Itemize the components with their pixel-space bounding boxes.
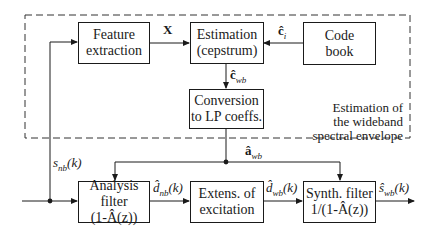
feature-extraction-block: Feature extraction	[78, 22, 150, 64]
block-label-line: excitation	[199, 202, 254, 218]
estimation-cepstrum-block: Estimation (cepstrum)	[190, 22, 264, 64]
conversion-lp-block: Conversion to LP coeffs.	[189, 89, 264, 129]
signal-label-dnb: d̂nb(k)	[153, 181, 183, 200]
signal-label-cwb: ĉwb	[230, 68, 246, 87]
signal-label-swb: ŝwb(k)	[379, 181, 409, 200]
block-label-line: Extens. of	[199, 186, 256, 202]
awb-to-synth-line	[226, 162, 340, 180]
signal-label-awb: âwb	[245, 144, 262, 163]
analysis-filter-block: Analysis filter (1-Â(z))	[78, 181, 150, 223]
branch-to-feature-line	[50, 42, 77, 201]
block-label-line: Estimation	[197, 27, 258, 43]
block-label-line: Code	[325, 28, 355, 44]
synthesis-filter-block: Synth. filter 1/(1-Â(z))	[303, 181, 376, 223]
code-book-block: Code book	[303, 22, 376, 65]
region-caption: Estimation of the wideband spectral enve…	[300, 101, 403, 143]
region-caption-line: the wideband	[300, 115, 403, 129]
signal-label-dwb: d̂wb(k)	[266, 181, 297, 200]
block-label-line: Analysis filter	[79, 178, 149, 210]
block-label-line: Feature	[93, 27, 135, 43]
block-label-line: 1/(1-Â(z))	[311, 202, 369, 218]
block-label-line: Conversion	[194, 93, 259, 109]
signal-label-ci: ĉi	[278, 24, 286, 43]
excitation-extension-block: Extens. of excitation	[190, 181, 264, 223]
block-label-line: (1-Â(z))	[91, 210, 138, 226]
region-caption-line: spectral envelope	[300, 129, 403, 143]
block-label-line: Synth. filter	[306, 186, 373, 202]
block-label-line: to LP coeffs.	[191, 109, 262, 125]
block-label-line: (cepstrum)	[197, 43, 258, 59]
signal-label-snb: snb(k)	[53, 156, 82, 175]
block-label-line: extraction	[86, 43, 142, 59]
block-label-line: book	[326, 44, 354, 60]
region-caption-line: Estimation of	[300, 101, 403, 115]
input-junction-dot	[48, 199, 53, 204]
signal-label-x: X	[163, 23, 172, 37]
